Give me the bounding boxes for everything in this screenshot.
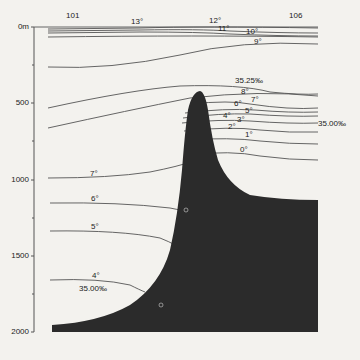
y-tick-500: 500	[1, 99, 29, 107]
isohaline-label-35-00-left: 35.00‰	[79, 285, 107, 293]
section-plot	[0, 0, 360, 360]
ocean-section-diagram: 0m 500 1000 1500 2000 101 106 13° 12° 11…	[0, 0, 360, 360]
isotherm-label-13: 13°	[131, 18, 143, 26]
y-tick-1500: 1500	[1, 252, 29, 260]
isotherm-label-7-right: 7°	[251, 96, 259, 104]
isotherm-label-0-right: 0°	[240, 146, 248, 154]
right-isotherms	[48, 86, 318, 160]
isotherm-label-9: 9°	[254, 38, 262, 46]
isotherm-label-4-left: 4°	[92, 272, 100, 280]
isotherm-label-2-right: 2°	[228, 123, 236, 131]
isotherm-label-7-left: 7°	[90, 170, 98, 178]
isohaline-label-35-25: 35.25‰	[235, 77, 263, 85]
isotherm-label-1-right: 1°	[245, 131, 253, 139]
isotherm-label-6-right: 6°	[234, 100, 242, 108]
isotherm-label-6-left: 6°	[91, 195, 99, 203]
isotherm-label-4-right: 4°	[223, 112, 231, 120]
isotherm-label-8: 8°	[241, 88, 249, 96]
isotherm-label-3-right: 3°	[237, 116, 245, 124]
isotherm-label-5-left: 5°	[91, 223, 99, 231]
station-label-101: 101	[66, 12, 79, 20]
station-label-106: 106	[289, 12, 302, 20]
surface-isotherms	[34, 27, 318, 68]
y-tick-2000: 2000	[1, 328, 29, 336]
y-tick-0: 0m	[1, 23, 29, 31]
isotherm-label-5-right: 5°	[245, 107, 253, 115]
isotherm-label-10: 10°	[246, 28, 258, 36]
y-tick-1000: 1000	[1, 176, 29, 184]
isohaline-label-35-00-right: 35.00‰	[318, 120, 346, 128]
isotherm-label-11: 11°	[218, 25, 230, 33]
